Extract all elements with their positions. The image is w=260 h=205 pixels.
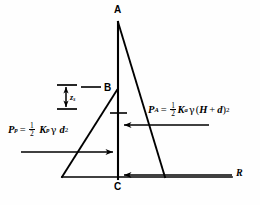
passive-force-subscript: p — [14, 127, 17, 134]
passive-pressure-hypotenuse — [62, 90, 117, 177]
active-fraction-denominator: 2 — [170, 109, 176, 118]
vertex-label-a: A — [114, 5, 121, 15]
dimension-label-zs: zs — [70, 94, 75, 103]
passive-fraction-numerator: 1 — [29, 122, 35, 130]
passive-pressure-formula: Pp = 1 2 Kp γ d2 — [8, 122, 68, 138]
passive-unit-weight-symbol: γ — [51, 125, 57, 135]
active-coefficient-subscript: a — [184, 107, 187, 114]
vertex-label-c: C — [114, 182, 121, 192]
active-plus-sign: + — [209, 105, 215, 116]
passive-equals-sign: = — [20, 125, 26, 136]
active-half-fraction: 1 2 — [170, 102, 176, 118]
dimension-subscript: s — [73, 96, 75, 102]
passive-fraction-denominator: 2 — [29, 129, 35, 138]
active-pressure-hypotenuse — [118, 22, 165, 177]
active-exponent: 2 — [226, 107, 230, 114]
passive-depth-exponent: 2 — [65, 127, 69, 134]
active-height-symbol: H — [199, 105, 207, 116]
active-pressure-formula: PA = 1 2 Ka γ(H + d)2 — [148, 102, 230, 118]
active-coefficient-symbol: K — [177, 105, 184, 116]
reaction-label-r: R — [236, 168, 243, 178]
vertex-label-b: B — [104, 83, 111, 93]
passive-half-fraction: 1 2 — [29, 122, 35, 138]
active-equals-sign: = — [161, 105, 167, 116]
active-unit-weight-symbol: γ — [189, 105, 195, 115]
passive-coefficient-subscript: p — [46, 127, 49, 134]
earth-pressure-diagram: A B C R zs Pp = 1 2 Kp γ d2 PA = 1 2 Ka … — [0, 0, 260, 205]
active-force-subscript: A — [154, 107, 158, 114]
active-fraction-numerator: 1 — [170, 102, 176, 110]
